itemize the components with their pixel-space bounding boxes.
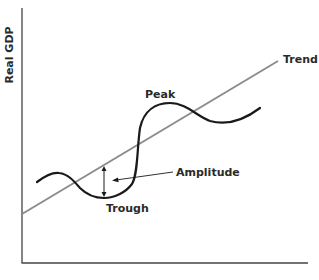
- peak-label: Peak: [145, 88, 176, 101]
- trend-line: [22, 61, 278, 214]
- trough-label: Trough: [106, 202, 149, 215]
- amplitude-leader-line: [112, 172, 173, 182]
- amplitude-arrow: [102, 166, 107, 197]
- business-cycle-curve: [37, 103, 260, 198]
- amplitude-label: Amplitude: [176, 166, 240, 179]
- trend-label: Trend: [283, 53, 318, 66]
- business-cycle-diagram: Real GDP Trend Peak Trough Amplitude: [0, 0, 319, 280]
- y-axis-label: Real GDP: [3, 26, 16, 83]
